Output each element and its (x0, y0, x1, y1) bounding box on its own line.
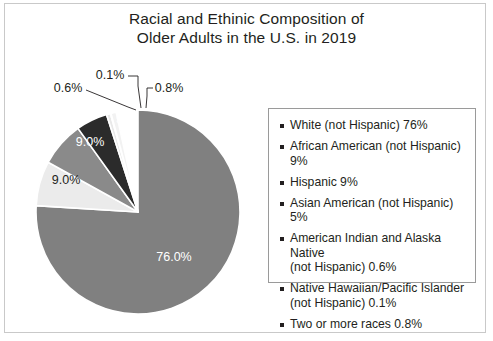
legend-bullet-icon (280, 181, 284, 185)
leader-line-0-1 (128, 76, 141, 108)
pie-value-label-hispanic: 9.0% (52, 173, 81, 187)
leader-line-0-6 (86, 90, 136, 110)
chart-title: Racial and Ethinic Composition of Older … (0, 9, 493, 47)
legend-item-native-hawaiian[interactable]: Native Hawaiian/Pacific Islander (not Hi… (278, 281, 467, 310)
pie-graphic (16, 62, 260, 314)
legend-item-label: Asian American (not Hispanic) 5% (290, 196, 467, 225)
legend-bullet-icon (280, 237, 284, 241)
pie-value-label-white: 76.0% (156, 250, 191, 264)
legend-item-white[interactable]: White (not Hispanic) 76% (278, 118, 467, 133)
legend-bullet-icon (280, 202, 284, 206)
legend-bullet-icon (280, 124, 284, 128)
legend-bullet-icon (280, 287, 284, 291)
legend-item-two-or-more-races[interactable]: Two or more races 0.8% (278, 317, 467, 332)
pie-callout-label-american-indian: 0.6% (54, 81, 83, 95)
pie-value-label-asian-american: 5% (116, 112, 134, 126)
legend-bullet-icon (280, 323, 284, 327)
legend-bullet-icon (280, 145, 284, 149)
legend-item-label: Hispanic 9% (290, 175, 358, 190)
pie-callout-label-native-hawaiian: 0.1% (96, 68, 125, 82)
legend-item-label: Two or more races 0.8% (290, 317, 422, 332)
legend-item-label: African American (not Hispanic) 9% (290, 139, 467, 168)
legend-item-asian-american[interactable]: Asian American (not Hispanic) 5% (278, 196, 467, 225)
pie-callout-label-two-or-more-races: 0.8% (155, 81, 184, 95)
legend-item-american-indian[interactable]: American Indian and Alaska Native (not H… (278, 231, 467, 275)
leader-line-0-8 (146, 88, 153, 108)
legend-item-label: Native Hawaiian/Pacific Islander (not Hi… (290, 281, 464, 310)
pie-plot-area: 76.0% 5% 9.0% 9.0% 0.6% 0.1% 0.8% (16, 62, 260, 314)
legend-item-hispanic[interactable]: Hispanic 9% (278, 175, 467, 190)
chart-legend: White (not Hispanic) 76% African America… (268, 108, 476, 283)
pie-slices (36, 110, 240, 314)
legend-item-label: White (not Hispanic) 76% (290, 118, 428, 133)
legend-item-label: American Indian and Alaska Native (not H… (290, 231, 467, 275)
legend-item-african-american[interactable]: African American (not Hispanic) 9% (278, 139, 467, 168)
pie-value-label-african-american: 9.0% (76, 135, 105, 149)
pie-chart-figure: Racial and Ethinic Composition of Older … (0, 0, 493, 341)
